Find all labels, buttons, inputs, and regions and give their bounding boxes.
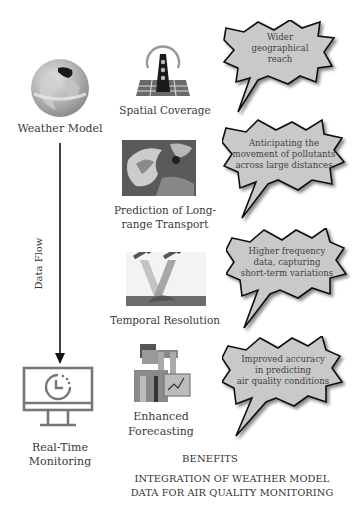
enhanced-label-line2: Forecasting xyxy=(102,425,220,438)
bubble-temporal-resolution: Higher frequency data, capturing short-t… xyxy=(226,228,350,334)
weather-model-node: Weather Model xyxy=(10,50,110,135)
bubble-long-range-transport: Anticipating the movement of pollutants … xyxy=(222,118,350,226)
bubble-line: reach xyxy=(232,54,328,65)
bubble-spatial-coverage: Wider geographical reach xyxy=(222,20,342,120)
bubble-line: in predicting xyxy=(228,365,338,376)
benefit-spatial-coverage: Spatial Coverage xyxy=(112,30,218,120)
benefit-temporal-resolution: Temporal Resolution xyxy=(112,250,218,330)
bubble-line: movement of pollutants xyxy=(226,149,342,160)
temporal-resolution-label: Temporal Resolution xyxy=(106,314,224,327)
bubble-line: Anticipating the xyxy=(226,138,342,149)
diagram-title-line1: INTEGRATION OF WEATHER MODEL xyxy=(110,473,354,484)
benefits-heading: BENEFITS xyxy=(130,453,290,464)
radio-tower-map-icon xyxy=(132,40,194,98)
bubble-line: across large distances xyxy=(226,160,342,171)
long-range-label-line1: Prediction of Long- xyxy=(106,204,224,217)
speech-bubble-shape xyxy=(222,336,346,442)
bubble-line: geographical xyxy=(232,43,328,54)
arrow-down-icon xyxy=(54,143,66,365)
weather-model-label: Weather Model xyxy=(10,122,110,135)
enhanced-label-line1: Enhanced xyxy=(102,410,220,423)
benefit-enhanced-forecasting: Enhanced Forecasting xyxy=(112,342,218,442)
monitor-clock-icon xyxy=(22,366,94,432)
bubble-line: Higher frequency xyxy=(232,246,342,257)
globe-icon xyxy=(30,58,90,118)
data-flow-label: Data Flow xyxy=(33,234,44,294)
long-range-label-line2: range Transport xyxy=(106,218,224,231)
bubble-line: Improved accuracy xyxy=(228,354,338,365)
bubble-line: short-term variations xyxy=(232,268,342,279)
forecaster-chart-icon xyxy=(132,342,194,404)
real-time-label-line1: Real-Time xyxy=(0,441,120,454)
spatial-coverage-label: Spatial Coverage xyxy=(106,104,224,117)
bubble-line: data, capturing xyxy=(232,257,342,268)
speech-bubble-shape xyxy=(226,228,350,334)
bubble-line: Wider xyxy=(232,32,328,43)
satellite-weather-image-icon xyxy=(122,140,196,196)
diagram-title-line2: DATA FOR AIR QUALITY MONITORING xyxy=(110,487,354,498)
speech-bubble-shape xyxy=(222,118,350,226)
bubble-enhanced-forecasting: Improved accuracy in predicting air qual… xyxy=(222,336,346,442)
satellites-beam-icon xyxy=(126,252,206,306)
bubble-line: air quality conditions xyxy=(228,376,338,387)
real-time-label-line2: Monitoring xyxy=(0,455,120,468)
benefit-long-range-transport: Prediction of Long- range Transport xyxy=(112,140,218,230)
